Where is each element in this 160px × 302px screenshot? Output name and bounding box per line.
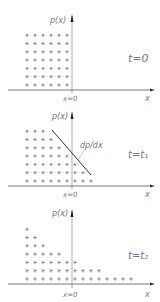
particle-cross-icon [41,269,45,273]
particle-cross-icon [33,171,37,175]
particle-cross-icon [49,269,53,273]
particle-cross-icon [41,58,45,62]
particle-cross-icon [49,42,53,46]
particle-cross-icon [57,277,61,281]
particle-cross-icon [49,146,53,150]
particle-cross-icon [41,171,45,175]
particle-cross-icon [57,269,61,273]
particle-cross-icon [25,163,29,167]
particle-cross-icon [65,42,69,46]
particle-cross-icon [33,58,37,62]
particle-cross-icon [25,75,29,79]
particle-cross-icon [81,171,85,175]
particle-cross-icon [57,33,61,37]
particle-cross-icon [33,50,37,54]
particle-cross-icon [25,138,29,142]
particle-cross-icon [33,67,37,71]
time-label: t=0 [128,52,149,65]
particle-cross-icon [41,179,45,183]
particle-cross-icon [57,252,61,256]
particle-cross-icon [57,50,61,54]
particle-cross-icon [25,227,29,231]
particle-cross-icon [113,277,117,281]
particle-cross-icon [65,277,69,281]
particle-cross-icon [33,179,37,183]
particle-cross-icon [49,154,53,158]
particle-cross-icon [33,75,37,79]
particle-cross-icon [25,261,29,265]
particle-cross-icon [25,252,29,256]
particle-cross-icon [33,244,37,248]
particle-cross-icon [33,146,37,150]
particle-cross-icon [25,42,29,46]
y-axis-arrow-icon [71,209,74,217]
y-axis-label: p(x) [51,112,68,121]
particle-cross-icon [57,42,61,46]
x-axis-arrow-icon [150,185,155,188]
particle-cross-icon [73,163,77,167]
particle-cross-icon [121,277,125,281]
gradient-label: dp/dx [80,141,103,150]
particle-cross-icon [81,277,85,281]
particle-cross-icon [33,261,37,265]
y-axis-arrow-icon [71,111,74,119]
particle-cross-icon [41,83,45,87]
particle-cross-icon [65,163,69,167]
particle-cross-icon [33,269,37,273]
particle-cross-icon [57,179,61,183]
particle-cross-icon [57,261,61,265]
particle-cross-icon [25,67,29,71]
diffusion-diagram: p(x) x x=0 t=0 p(x) x x=0 t=t₁ dp/dx p(x… [0,0,160,302]
particle-cross-icon [49,58,53,62]
particle-cross-icon [41,154,45,158]
particle-cross-icon [57,171,61,175]
particle-cross-icon [65,67,69,71]
particle-cross-icon [73,269,77,273]
panel-t0: p(x) x x=0 t=0 [8,14,155,103]
particle-cross-icon [33,163,37,167]
particle-cross-icon [25,129,29,133]
particle-cross-icon [33,138,37,142]
particle-cross-icon [25,236,29,240]
particle-cross-icon [49,277,53,281]
y-axis-arrow-icon [71,14,74,22]
time-label: t=t₂ [128,250,148,261]
particle-cross-icon [73,179,77,183]
particle-cross-icon [49,138,53,142]
particle-cross-icon [41,244,45,248]
particle-cross-icon [57,67,61,71]
particle-cross-icon [25,146,29,150]
particle-cross-icon [57,163,61,167]
particle-cross-icon [57,146,61,150]
particle-cross-icon [25,33,29,37]
x-axis-label: x [144,94,150,103]
particle-cross-icon [129,277,133,281]
particle-cross-icon [57,83,61,87]
particle-cross-icon [65,83,69,87]
origin-label: x=0 [62,291,78,299]
particle-cross-icon [49,179,53,183]
particle-cross-icon [49,33,53,37]
particle-cross-icon [49,163,53,167]
particle-cross-icon [33,33,37,37]
particle-cross-icon [33,252,37,256]
particle-cross-icon [41,163,45,167]
particle-cross-icon [89,179,93,183]
particle-cross-icon [41,67,45,71]
particle-cross-icon [89,277,93,281]
particle-cross-icon [57,58,61,62]
particle-cross-icon [25,269,29,273]
particle-cross-icon [41,75,45,79]
gradient-line [52,130,91,175]
particle-cross-icon [25,171,29,175]
particle-cross-icon [41,50,45,54]
particle-cross-icon [81,179,85,183]
x-axis-arrow-icon [150,89,155,92]
particle-cross-icon [25,58,29,62]
panel-t1: p(x) x x=0 t=t₁ dp/dx [8,111,155,199]
particle-cross-icon [57,154,61,158]
x-axis-arrow-icon [150,283,155,286]
particle-cross-icon [65,58,69,62]
particle-cross-icon [41,252,45,256]
particle-cross-icon [73,261,77,265]
